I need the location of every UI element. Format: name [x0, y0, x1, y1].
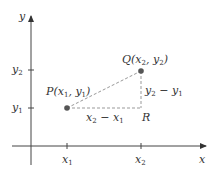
y-axis-label: y: [19, 11, 25, 22]
point-p-label: P(x1, y1): [46, 86, 90, 99]
point-p: [64, 105, 70, 111]
diagram-graphics: [0, 0, 217, 180]
x2-tick-label: x2: [135, 154, 146, 167]
x-axis-label: x: [199, 154, 205, 165]
horizontal-distance-label: x2 − x1: [86, 112, 124, 125]
y2-tick-label: y2: [12, 64, 23, 77]
point-q: [138, 68, 144, 74]
point-r-label: R: [142, 112, 150, 123]
vertical-distance-label: y2 − y1: [145, 85, 183, 98]
coordinate-diagram: y x y2 y1 x1 x2 P(x1, y1) Q(x2, y2) R x2…: [0, 0, 217, 180]
x1-tick-label: x1: [62, 154, 73, 167]
point-q-label: Q(x2, y2): [122, 54, 168, 67]
y1-tick-label: y1: [12, 102, 23, 115]
